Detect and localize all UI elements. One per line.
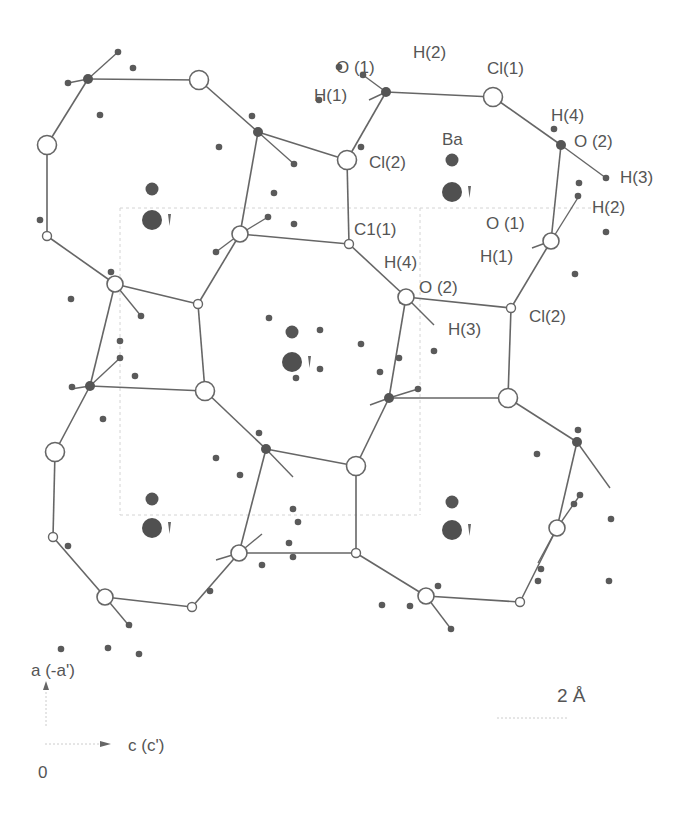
origin-label: 0 (38, 763, 47, 782)
atom-label-o1-right: O (1) (486, 214, 525, 233)
hydrogen-atom (396, 355, 403, 362)
hydrogen-atom (136, 651, 143, 658)
hydrogen-atom (291, 161, 298, 168)
hydrogen-atom (576, 180, 583, 187)
hydrogen-atom (65, 543, 72, 550)
hydrogen-atom (286, 540, 293, 547)
hydrogen-atom (290, 554, 297, 561)
bond (53, 452, 55, 537)
c-axis-label: c (c') (128, 736, 164, 755)
displacement-arrow-icon (468, 186, 471, 198)
hydrogen-atom (551, 126, 558, 133)
atom-label-cl2-right: Cl(2) (529, 307, 566, 326)
hydrogen-atom (407, 603, 414, 610)
bond (198, 304, 205, 391)
bond (90, 284, 115, 386)
hydrogen-atom (132, 373, 139, 380)
hydrogen-atom (65, 80, 72, 87)
hydrogen-atom (358, 341, 365, 348)
atom-label-h2-right: H(2) (592, 198, 625, 217)
oxygen-atom-ring (543, 233, 559, 249)
hydrogen-atom (571, 501, 578, 508)
bond (90, 386, 205, 391)
crystal-structure-diagram: O (1)H(2)H(1)Cl(1)BaCl(2)H(4)O (2)H(3)H(… (0, 0, 700, 821)
atom-label-cl1-top: Cl(1) (487, 59, 524, 78)
bond-network (47, 79, 577, 607)
bond (508, 398, 577, 442)
chlorine-atom-large (196, 382, 215, 401)
hydrogen-atom (69, 384, 76, 391)
hydrogen-atom (290, 506, 297, 513)
atoms (37, 49, 615, 658)
chlorine-atom-small (188, 603, 197, 612)
barium-atom-large (442, 182, 462, 202)
a-axis-arrow-icon (43, 681, 49, 690)
hydrogen-atom (68, 296, 75, 303)
chlorine-atom-large (338, 151, 357, 170)
hydrogen-atom (97, 112, 104, 119)
chlorine-atom-large (499, 389, 518, 408)
hydrogen-atom (115, 49, 122, 56)
hydrogen-atom (603, 175, 610, 182)
oxygen-atom (85, 381, 95, 391)
bond (192, 553, 239, 607)
hydrogen-atom (271, 190, 278, 197)
atom-label-c11-mid: C1(1) (354, 220, 397, 239)
hydrogen-atom (256, 430, 263, 437)
hydrogen-atom (291, 221, 298, 228)
chlorine-atom-small (43, 232, 52, 241)
displacement-arrow-icon (168, 214, 171, 226)
bond (557, 442, 577, 528)
bond (55, 386, 90, 452)
oxygen-atom-ring (97, 589, 113, 605)
atom-label-h3-mid: H(3) (448, 320, 481, 339)
hydrogen-atom (266, 315, 273, 322)
bond (356, 553, 426, 596)
oxygen-atom (384, 393, 394, 403)
atom-label-h4-top: H(4) (551, 106, 584, 125)
barium-atom-large (142, 518, 162, 538)
h-bond (577, 442, 610, 488)
chlorine-atom-small (507, 304, 516, 313)
hydrogen-atom (117, 338, 124, 345)
chlorine-atom-small (49, 533, 58, 542)
barium-atom (446, 496, 459, 509)
chlorine-atom-small (352, 549, 361, 558)
oxygen-atom-ring (231, 545, 247, 561)
bond (198, 234, 240, 304)
bond (88, 79, 199, 80)
chlorine-atom-small (194, 300, 203, 309)
atom-label-h4-mid: H(4) (384, 253, 417, 272)
oxygen-atom (572, 437, 582, 447)
oxygen-atom (83, 74, 93, 84)
a-axis-label: a (-a') (31, 661, 75, 680)
bond (347, 160, 349, 244)
oxygen-atom-ring (107, 276, 123, 292)
atom-label-o2-mid: O (2) (419, 278, 458, 297)
hydrogen-atom (126, 622, 133, 629)
bond (258, 132, 347, 160)
bond (199, 80, 258, 132)
hydrogen-atom (317, 327, 324, 334)
hydrogen-atom (435, 583, 442, 590)
bond (105, 597, 192, 607)
oxygen-atom-ring (232, 226, 248, 242)
hydrogen-atom (575, 427, 582, 434)
hydrogen-atom (606, 578, 613, 585)
hydrogen-atom (108, 269, 115, 276)
chlorine-atom-large (38, 136, 57, 155)
hydrogen-atom (117, 355, 124, 362)
hydrogen-atom (37, 217, 44, 224)
oxygen-atom (556, 140, 566, 150)
chlorine-atom-small (516, 598, 525, 607)
hydrogen-atom (130, 65, 137, 72)
hydrogen-atom (358, 144, 365, 151)
atom-labels: O (1)H(2)H(1)Cl(1)BaCl(2)H(4)O (2)H(3)H(… (314, 43, 653, 339)
bond (426, 596, 520, 602)
hydrogen-atom (608, 516, 615, 523)
atom-label-h3-top: H(3) (620, 168, 653, 187)
hydrogen-bonds (68, 52, 610, 629)
hydrogen-atom (577, 492, 584, 499)
hydrogen-atom (603, 229, 610, 236)
barium-atom (446, 154, 459, 167)
